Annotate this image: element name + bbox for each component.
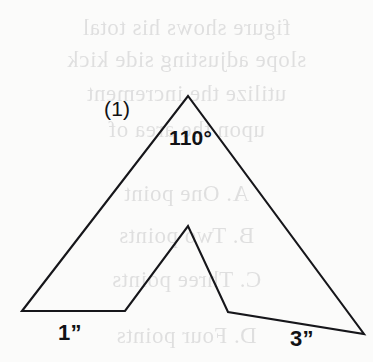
geometry-figure: [0, 0, 373, 362]
right-base-length-label: 3”: [290, 326, 314, 352]
figure-number-label: (1): [104, 97, 130, 121]
apex-angle-label: 110°: [169, 126, 212, 150]
left-base-length-label: 1”: [58, 320, 82, 346]
scanned-page: figure shows his total slope adjusting s…: [0, 0, 373, 362]
